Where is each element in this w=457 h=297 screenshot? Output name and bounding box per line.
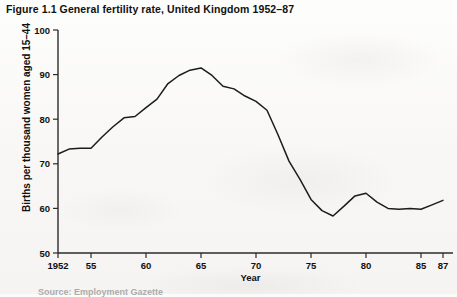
x-axis-tick-label: 55	[86, 260, 97, 271]
y-axis-tick-label: 50	[39, 248, 50, 259]
x-axis-tick-label: 1952	[47, 260, 68, 271]
x-axis-tick-label: 65	[196, 260, 207, 271]
x-axis-tick-label: 60	[141, 260, 152, 271]
y-axis-tick-label: 80	[39, 114, 50, 125]
x-axis-tick-label: 75	[306, 260, 317, 271]
source-note: Source: Employment Gazette	[38, 287, 163, 297]
x-axis-tick-label: 70	[251, 260, 262, 271]
data-series-line-0	[58, 68, 443, 216]
y-axis-tick-label: 100	[34, 25, 50, 36]
y-axis-tick-label: 70	[39, 158, 50, 169]
y-axis-title: Births per thousand women aged 15–44	[21, 8, 32, 228]
y-axis-tick-label: 90	[39, 69, 50, 80]
x-axis-tick-label: 85	[416, 260, 427, 271]
y-axis-tick-label: 60	[39, 203, 50, 214]
x-axis-title: Year	[240, 272, 260, 283]
x-axis-tick-label: 87	[438, 260, 449, 271]
x-axis-tick-label: 80	[361, 260, 372, 271]
